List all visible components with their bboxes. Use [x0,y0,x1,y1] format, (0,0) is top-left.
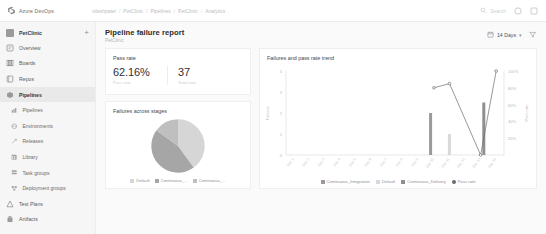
environments-icon [11,123,18,130]
trend-chart-svg[interactable]: 0123420%40%60%80%100%FailuresPass rateDa… [260,63,536,185]
svg-text:Day 11: Day 11 [441,157,451,168]
legend-swatch [452,180,456,184]
sidebar-project-header[interactable]: PetClinic + [0,25,95,40]
breadcrumb-separator: / [146,8,147,14]
legend-item-continuous-integration[interactable]: Continuous_... [155,178,188,183]
pass-rate-metrics: 62.16% Pass rate 37 Total runs [106,61,250,85]
sidebar-item-environments[interactable]: Environments [0,118,95,134]
page-title: Pipeline failure report [105,28,184,37]
breadcrumb-item-analytics[interactable]: Analytics [205,8,225,14]
sidebar-item-label: Boards [19,60,35,66]
metric-value: 37 [178,66,196,78]
top-bar-actions: Search [480,7,546,15]
task-groups-icon [11,169,18,176]
svg-text:2: 2 [280,111,283,116]
artifacts-icon [6,215,14,223]
sidebar-item-label: Deployment groups [23,185,66,191]
svg-text:4: 4 [280,69,283,74]
legend-item-default[interactable]: Default [376,179,395,184]
breadcrumb-item-project[interactable]: PetClinic [123,8,143,14]
legend-swatch [193,179,197,183]
legend-label: Continuous_... [199,178,226,183]
legend-item-continuous-delivery[interactable]: Continuous_... [193,178,226,183]
legend-item-pass-rate[interactable]: Pass rate [452,179,476,184]
breadcrumb-separator: / [174,8,175,14]
dashboard-panels: Pass rate 62.16% Pass rate 37 Total runs [96,43,546,189]
sidebar-item-label: Artifacts [19,216,38,222]
breadcrumb-item-org[interactable]: nileshpatel [92,8,116,14]
sidebar-item-label: Overview [19,45,41,51]
failures-and-pass-rate-trend-card: Failures and pass rate trend 0123420%40%… [259,48,537,189]
page-subtitle: PetClinic [105,38,184,43]
svg-text:Failures: Failures [265,106,270,120]
svg-text:Day 9: Day 9 [411,157,420,167]
svg-text:40%: 40% [508,119,516,124]
sidebar-item-releases[interactable]: Releases [0,134,95,150]
svg-text:Day 12: Day 12 [456,157,466,169]
pipelines-icon [6,91,14,99]
boards-icon [6,59,14,67]
legend-item-continuous-integration[interactable]: Continuous_Integration [321,179,370,184]
date-range-picker[interactable]: 14 Days ▾ [487,31,521,38]
sidebar-item-task-groups[interactable]: Task groups [0,165,95,181]
sidebar-item-label: Releases [23,138,44,144]
svg-text:Day 5: Day 5 [348,157,357,167]
main-content: Pipeline failure report PetClinic 14 Day… [96,22,546,234]
repos-icon [6,75,14,83]
page-header: Pipeline failure report PetClinic 14 Day… [96,22,546,43]
pie-chart-title: Failures across stages [106,102,250,114]
svg-text:Day 7: Day 7 [379,157,388,167]
breadcrumb-separator: / [119,8,120,14]
pie-chart-svg [149,117,207,175]
svg-text:20%: 20% [508,136,516,141]
legend-item-default[interactable]: Default [130,178,149,183]
sidebar-item-label: Pipelines [19,92,42,98]
legend-item-continuous-delivery[interactable]: Continuous_Delivery [401,179,446,184]
sidebar-item-deployment-groups[interactable]: Deployment groups [0,180,95,196]
project-icon [6,29,14,37]
chevron-down-icon: ▾ [519,32,522,38]
legend-label: Default [382,179,395,184]
filter-icon[interactable] [529,31,537,39]
sidebar-item-pipelines-sub[interactable]: Pipelines [0,102,95,118]
pie-chart [106,117,250,175]
sidebar-item-library[interactable]: Library [0,149,95,165]
left-column: Pass rate 62.16% Pass rate 37 Total runs [105,48,251,189]
svg-text:Day 2: Day 2 [302,157,311,167]
breadcrumb-item-pipeline[interactable]: PetClinic [178,8,198,14]
brand-label: Azure DevOps [19,8,54,14]
sidebar-item-overview[interactable]: Overview [0,40,95,56]
azure-devops-logo-icon [7,6,16,15]
breadcrumb-item-pipelines[interactable]: Pipelines [150,8,170,14]
releases-icon [11,138,18,145]
sidebar-project-name: PetClinic [19,30,42,36]
add-project-button[interactable]: + [84,29,89,37]
test-plans-icon [6,200,14,208]
trend-chart-title: Failures and pass rate trend [260,49,536,61]
sidebar-item-test-plans[interactable]: Test Plans [0,196,95,212]
user-avatar-icon[interactable] [530,7,538,15]
library-icon [11,154,18,161]
sidebar-item-label: Test Plans [19,201,43,207]
metric-caption: Pass rate [113,80,167,85]
sidebar-item-boards[interactable]: Boards [0,56,95,72]
sidebar: PetClinic + Overview Boards R [0,22,96,234]
sidebar-item-repos[interactable]: Repos [0,71,95,87]
search-placeholder: Search [490,8,506,14]
pie-chart-legend: Default Continuous_... Continuous_... [106,178,250,183]
legend-label: Pass rate [458,179,476,184]
search-input[interactable]: Search [480,7,506,14]
breadcrumb: nileshpatel / PetClinic / Pipelines / Pe… [92,8,225,14]
svg-text:1: 1 [280,132,283,137]
sidebar-item-pipelines[interactable]: Pipelines [0,87,95,103]
overview-icon [6,44,14,52]
metric-caption: Total runs [178,80,196,85]
right-column: Failures and pass rate trend 0123420%40%… [259,48,537,189]
legend-label: Default [136,178,149,183]
metric-pass-rate: 62.16% Pass rate [113,66,167,85]
help-icon[interactable] [514,7,522,15]
brand-home-link[interactable]: Azure DevOps [0,6,92,15]
legend-swatch [401,180,405,184]
sidebar-item-artifacts[interactable]: Artifacts [0,212,95,228]
svg-text:60%: 60% [508,103,516,108]
